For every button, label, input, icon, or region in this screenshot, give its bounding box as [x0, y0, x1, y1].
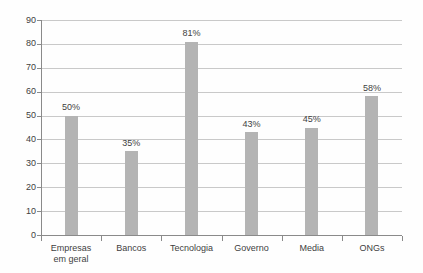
y-axis-label-90: 90	[26, 16, 36, 25]
gridline-90	[41, 20, 402, 21]
y-tick-80	[37, 44, 41, 45]
y-axis-label-30: 30	[26, 159, 36, 168]
x-tick-boundary-2	[161, 236, 162, 241]
gridline-70	[41, 68, 402, 69]
x-tick-boundary-1	[101, 236, 102, 241]
bar-tecnologia[interactable]	[185, 42, 198, 236]
gridline-10	[41, 211, 402, 212]
y-axis-ticks	[41, 20, 42, 236]
bar-value-ongs: 58%	[349, 84, 395, 93]
x-tick-boundary-0	[41, 236, 42, 241]
plot-area	[41, 20, 402, 235]
gridline-60	[41, 92, 402, 93]
bar-chart: 90 80 70 60 50 40 30 20 10 0	[0, 0, 423, 273]
y-axis-labels: 90 80 70 60 50 40 30 20 10 0	[0, 0, 36, 273]
bar-value-bancos: 35%	[108, 139, 154, 148]
x-tick-boundary-5	[342, 236, 343, 241]
bar-media[interactable]	[305, 128, 318, 236]
bar-value-media: 45%	[289, 115, 335, 124]
x-tick-boundary-6	[402, 236, 403, 241]
bar-bancos[interactable]	[125, 151, 138, 235]
y-axis-label-60: 60	[26, 87, 36, 96]
bar-value-tecnologia: 81%	[168, 29, 214, 38]
gridline-40	[41, 139, 402, 140]
y-tick-50	[37, 116, 41, 117]
x-tick-boundary-4	[282, 236, 283, 241]
gridline-30	[41, 163, 402, 164]
y-tick-90	[37, 20, 41, 21]
gridline-50	[41, 116, 402, 117]
bar-governo[interactable]	[245, 132, 258, 235]
y-tick-30	[37, 163, 41, 164]
gridline-80	[41, 44, 402, 45]
bar-value-governo: 43%	[229, 120, 275, 129]
y-axis-label-70: 70	[26, 63, 36, 72]
bar-value-empresas-em-geral: 50%	[48, 103, 94, 112]
x-axis-category-ongs: ONGs	[335, 243, 409, 254]
y-tick-10	[37, 211, 41, 212]
x-tick-boundary-3	[222, 236, 223, 241]
y-tick-40	[37, 139, 41, 140]
y-axis-label-0: 0	[31, 231, 36, 240]
y-tick-20	[37, 187, 41, 188]
y-tick-70	[37, 68, 41, 69]
y-axis-label-10: 10	[26, 207, 36, 216]
y-axis-label-50: 50	[26, 111, 36, 120]
gridline-20	[41, 187, 402, 188]
y-axis-label-20: 20	[26, 183, 36, 192]
y-axis-label-80: 80	[26, 39, 36, 48]
bar-empresas-em-geral[interactable]	[65, 116, 78, 235]
bar-ongs[interactable]	[365, 96, 378, 235]
y-tick-60	[37, 92, 41, 93]
y-axis-label-40: 40	[26, 135, 36, 144]
